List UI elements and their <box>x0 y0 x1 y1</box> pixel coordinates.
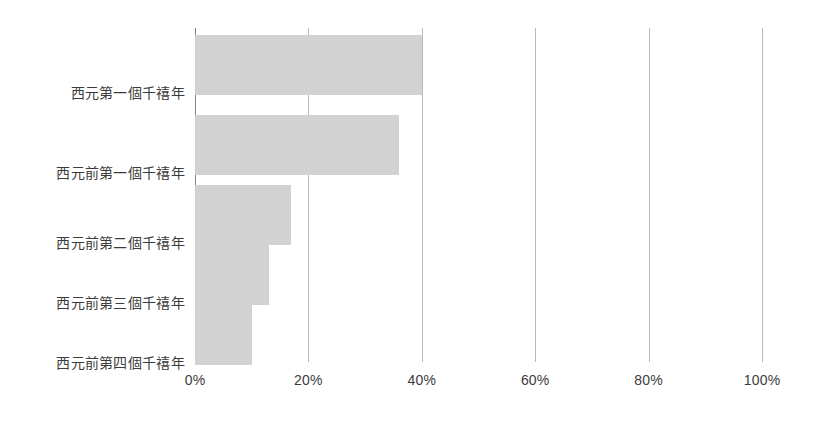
gridline-3 <box>535 28 536 362</box>
x-tick-label: 100% <box>744 372 781 388</box>
x-tick-label: 40% <box>407 372 436 388</box>
bar[interactable] <box>195 185 291 245</box>
plot-area <box>195 28 762 362</box>
bar[interactable] <box>195 245 269 305</box>
gridline-5 <box>762 28 763 362</box>
category-label: 西元前第四個千禧年 <box>10 356 185 370</box>
x-tick-label: 0% <box>185 372 206 388</box>
bar[interactable] <box>195 35 422 95</box>
category-label: 西元前第一個千禧年 <box>10 166 185 180</box>
category-label: 西元前第二個千禧年 <box>10 236 185 250</box>
y-axis-category-labels: 西元第一個千禧年 西元前第一個千禧年 西元前第二個千禧年 西元前第三個千禧年 西… <box>0 28 185 362</box>
gridline-4 <box>649 28 650 362</box>
x-axis-tick-labels: 0% 20% 40% 60% 80% 100% <box>195 372 762 402</box>
x-tick-label: 20% <box>294 372 323 388</box>
gridline-2 <box>422 28 423 362</box>
bar[interactable] <box>195 305 252 365</box>
x-tick-label: 60% <box>521 372 550 388</box>
x-tick-label: 80% <box>634 372 663 388</box>
bar[interactable] <box>195 115 399 175</box>
category-label: 西元第一個千禧年 <box>10 86 185 100</box>
bar-chart: 西元第一個千禧年 西元前第一個千禧年 西元前第二個千禧年 西元前第三個千禧年 西… <box>0 0 820 433</box>
category-label: 西元前第三個千禧年 <box>10 296 185 310</box>
